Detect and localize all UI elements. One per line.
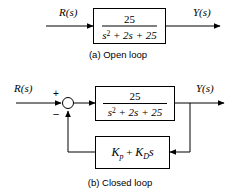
summing-junction-circle bbox=[63, 98, 74, 109]
open-loop-numerator: 25 bbox=[124, 13, 136, 25]
closed-loop-output-label: Y(s) bbox=[196, 82, 214, 95]
closed-loop-denominator: s2 + 2s + 25 bbox=[108, 106, 163, 119]
open-loop-caption: (a) Open loop bbox=[89, 49, 147, 60]
controller-kd-var: s bbox=[149, 145, 154, 159]
open-loop-input-label: R(s) bbox=[58, 6, 78, 19]
closed-loop-numerator: 25 bbox=[130, 90, 142, 102]
open-loop-denominator: s2 + 2s + 25 bbox=[102, 29, 157, 42]
block-diagram-figure: R(s) Y(s) 25 s2 + 2s + 25 (a) Open loop … bbox=[0, 0, 236, 194]
diagram-canvas: R(s) Y(s) 25 s2 + 2s + 25 (a) Open loop … bbox=[0, 0, 236, 194]
closed-loop-input-label: R(s) bbox=[13, 82, 33, 95]
open-loop-output-label: Y(s) bbox=[193, 6, 211, 19]
summing-junction-minus-sign: – bbox=[53, 108, 59, 119]
closed-loop-caption: (b) Closed loop bbox=[88, 177, 152, 188]
open-loop-denominator-rest: + 2s + 25 bbox=[113, 29, 157, 41]
feedback-return-path bbox=[68, 111, 96, 152]
summing-junction-plus-sign: + bbox=[53, 88, 59, 99]
closed-loop-denominator-rest: + 2s + 25 bbox=[118, 106, 162, 118]
